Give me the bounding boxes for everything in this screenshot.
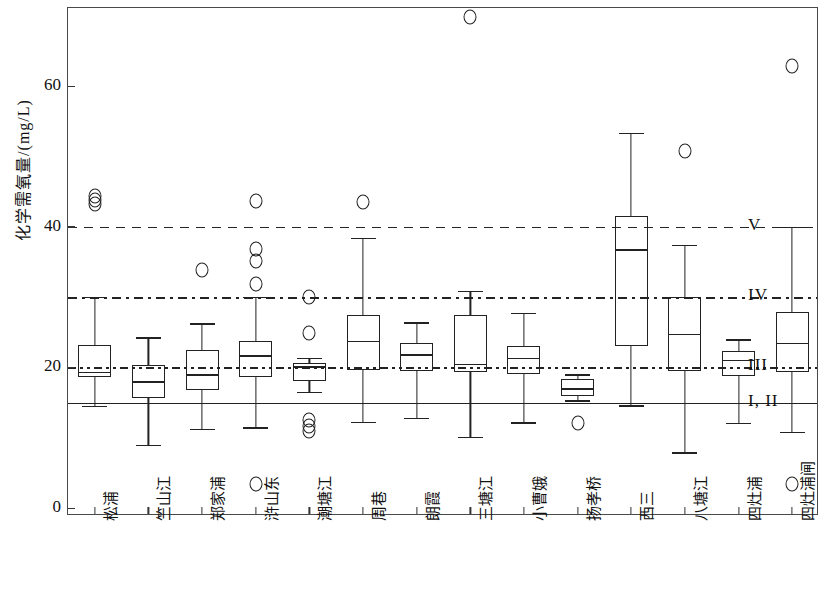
lower-whisker-cap (243, 427, 268, 428)
boxplot-group (175, 8, 229, 514)
y-tick-label: 60 (44, 75, 61, 95)
median-line (400, 354, 433, 356)
lower-whisker-line (470, 372, 471, 437)
lower-whisker-line (255, 377, 256, 428)
x-axis-label-text: 松浦 (101, 517, 121, 521)
box-iqr (400, 343, 433, 370)
outlier-point (196, 262, 209, 277)
outlier-point (249, 477, 262, 492)
y-axis-title: 化学需氧量/(mg/L) (2, 20, 42, 320)
outlier-point (786, 477, 799, 492)
median-line (561, 388, 594, 390)
outlier-point (571, 415, 584, 430)
outlier-point (303, 325, 316, 340)
lower-whisker-cap (190, 429, 215, 430)
boxplot-group (712, 8, 766, 514)
x-axis-label-text: 扬孝桥 (584, 517, 604, 521)
upper-whisker-line (416, 322, 417, 343)
x-axis-label: 小曹娥 (512, 517, 534, 537)
median-line (186, 374, 219, 376)
lower-whisker-line (523, 374, 524, 422)
x-axis-label-text: 小曹娥 (530, 517, 550, 521)
upper-whisker-cap (458, 291, 483, 292)
x-axis-label-text: 四灶浦 (745, 517, 765, 521)
lower-whisker-cap (458, 437, 483, 438)
upper-whisker-cap (82, 297, 107, 298)
upper-whisker-line (684, 245, 685, 297)
outlier-point (678, 143, 691, 158)
boxplot-group (122, 8, 176, 514)
lower-whisker-line (309, 381, 310, 392)
outlier-point (303, 413, 316, 428)
outlier-point (249, 277, 262, 292)
y-tick-label: 20 (44, 356, 61, 376)
boxplot-group (497, 8, 551, 514)
boxplot-group (444, 8, 498, 514)
outlier-point (786, 58, 799, 73)
upper-whisker-line (631, 133, 632, 217)
x-axis-label-text: 四灶浦闸 (798, 517, 818, 521)
upper-whisker-cap (136, 337, 161, 338)
lower-whisker-line (684, 371, 685, 453)
median-line (507, 358, 540, 360)
upper-whisker-cap (297, 358, 322, 359)
x-axis-label: 周巷 (351, 517, 373, 537)
x-axis-label: 郑家浦 (190, 517, 212, 537)
x-axis-label-text: 浒山东 (262, 517, 282, 521)
class-label-iii: III (748, 356, 768, 374)
boxplot-group (336, 8, 390, 514)
outlier-point (357, 195, 370, 210)
boxplot-group (604, 8, 658, 514)
x-axis-label-text: 周巷 (369, 517, 389, 521)
upper-whisker-cap (565, 374, 590, 375)
class-label-v: V (748, 216, 761, 234)
x-axis-label-text: 八塘江 (691, 517, 711, 521)
box-iqr (186, 350, 219, 390)
median-line (615, 249, 648, 251)
x-axis-label: 竺山江 (136, 517, 158, 537)
y-axis-title-text: 化学需氧量/(mg/L) (10, 99, 34, 241)
x-axis-label-text: 潮塘江 (315, 517, 335, 521)
box-iqr (561, 379, 594, 395)
lower-whisker-line (416, 371, 417, 418)
x-axis-label: 西三 (619, 517, 641, 537)
lower-whisker-cap (82, 406, 107, 407)
boxplot-group (390, 8, 444, 514)
upper-whisker-cap (351, 238, 376, 239)
outlier-point (249, 241, 262, 256)
upper-whisker-line (94, 297, 95, 345)
outlier-point (303, 290, 316, 305)
upper-whisker-line (792, 227, 793, 312)
x-axis-label: 浒山东 (244, 517, 266, 537)
median-line (347, 341, 380, 343)
lower-whisker-line (792, 372, 793, 432)
boxplot-group (658, 8, 712, 514)
lower-whisker-cap (619, 405, 644, 406)
outlier-point (464, 9, 477, 24)
x-axis-label: 八塘江 (673, 517, 695, 537)
upper-whisker-cap (619, 133, 644, 134)
upper-whisker-line (201, 323, 202, 350)
x-axis-label-text: 朗霞 (423, 517, 443, 521)
upper-whisker-line (362, 238, 363, 315)
box-iqr (239, 341, 272, 376)
upper-whisker-cap (190, 323, 215, 324)
x-axis-label: 四灶浦 (727, 517, 749, 537)
x-axis-label: 松浦 (83, 517, 105, 537)
x-axis-label-text: 三塘江 (476, 517, 496, 521)
boxplot-group (551, 8, 605, 514)
upper-whisker-line (523, 313, 524, 346)
x-axis-label-layer: 松浦竺山江郑家浦浒山东潮塘江周巷朗霞三塘江小曹娥扬孝桥西三八塘江四灶浦四灶浦闸 (67, 517, 818, 605)
x-axis-label: 朗霞 (405, 517, 427, 537)
lower-whisker-cap (780, 432, 805, 433)
x-axis-label-text: 竺山江 (154, 517, 174, 521)
x-axis-label-text: 郑家浦 (208, 517, 228, 521)
median-line (776, 343, 809, 345)
box-iqr (347, 315, 380, 370)
upper-whisker-line (738, 339, 739, 350)
lower-whisker-line (362, 370, 363, 421)
median-line (239, 355, 272, 357)
lower-whisker-cap (726, 423, 751, 424)
lower-whisker-cap (511, 422, 536, 423)
boxplot-group (765, 8, 819, 514)
